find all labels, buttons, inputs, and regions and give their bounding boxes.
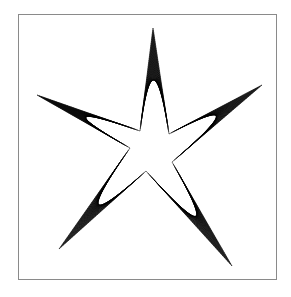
plot-frame	[19, 15, 277, 280]
string-art-star-figure	[0, 0, 291, 297]
star-string-lines	[37, 28, 262, 266]
